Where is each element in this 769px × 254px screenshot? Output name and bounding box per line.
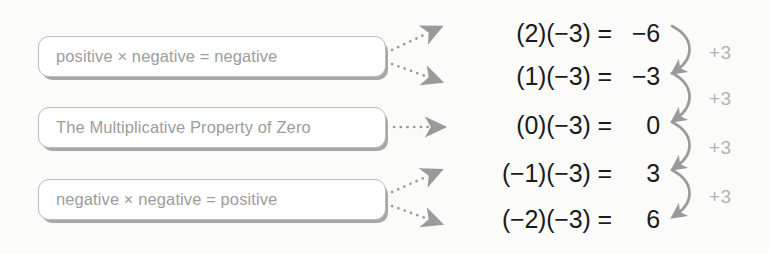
step-arrow-eq1-eq2 — [672, 73, 690, 118]
equation-row: (0)(−3) = 0 — [455, 110, 660, 140]
equation-left-side: (−1)(−3) — [455, 159, 591, 188]
equation-row: (−2)(−3) = 6 — [455, 204, 660, 234]
equation-result: 0 — [614, 111, 660, 140]
rule-box-label: positive × negative = negative — [39, 47, 277, 66]
equals-sign: = — [591, 19, 614, 48]
equals-sign: = — [591, 205, 614, 234]
connector-arrow-box2-eq3 — [392, 176, 428, 192]
step-annotation: +3 — [709, 88, 731, 110]
rule-box-label: The Multiplicative Property of Zero — [39, 118, 311, 137]
step-arrow-eq0-eq1 — [672, 26, 690, 70]
rule-box-positive-times-negative[interactable]: positive × negative = negative — [38, 36, 386, 77]
connector-arrow-box0-eq1 — [392, 64, 428, 77]
rule-box-multiplicative-property-of-zero[interactable]: The Multiplicative Property of Zero — [38, 107, 386, 148]
connector-arrow-box0-eq0 — [392, 33, 428, 50]
equals-sign: = — [591, 62, 614, 91]
equation-result: −3 — [614, 62, 660, 91]
step-annotation: +3 — [709, 186, 731, 208]
step-arrow-eq2-eq3 — [672, 122, 690, 166]
equation-row: (1)(−3) = −3 — [455, 61, 660, 91]
equation-result: 3 — [614, 159, 660, 188]
equals-sign: = — [591, 111, 614, 140]
step-annotation: +3 — [709, 137, 731, 159]
rule-box-label: negative × negative = positive — [39, 190, 277, 209]
connector-arrow-box2-eq4 — [392, 206, 428, 219]
equation-row: (−1)(−3) = 3 — [455, 158, 660, 188]
step-arrow-eq3-eq4 — [672, 170, 690, 214]
equation-result: −6 — [614, 19, 660, 48]
equation-left-side: (−2)(−3) — [455, 205, 591, 234]
diagram-canvas: positive × negative = negative The Multi… — [0, 0, 769, 254]
rule-box-negative-times-negative[interactable]: negative × negative = positive — [38, 179, 386, 220]
equation-left-side: (2)(−3) — [455, 19, 591, 48]
equation-left-side: (1)(−3) — [455, 62, 591, 91]
equation-row: (2)(−3) = −6 — [455, 18, 660, 48]
equation-result: 6 — [614, 205, 660, 234]
step-annotation: +3 — [709, 42, 731, 64]
equals-sign: = — [591, 159, 614, 188]
equation-left-side: (0)(−3) — [455, 111, 591, 140]
